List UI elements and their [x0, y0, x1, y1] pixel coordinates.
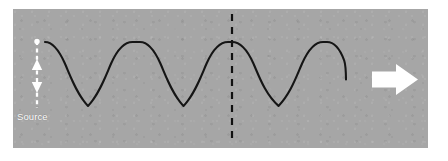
transverse-wave-curve [45, 42, 346, 106]
source-arrowhead-down [32, 82, 42, 93]
source-label: Source [17, 111, 48, 122]
wave-diagram-figure: Source [0, 0, 448, 161]
propagation-arrow-icon [372, 64, 418, 95]
source-arrowhead-up [32, 59, 42, 70]
wave-scene [0, 0, 448, 161]
source-origin-dot [34, 39, 39, 44]
source-oscillation-arrow [32, 39, 42, 108]
